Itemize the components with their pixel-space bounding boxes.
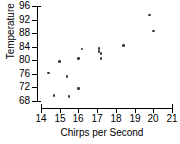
data-point (68, 95, 71, 98)
data-points-layer (0, 0, 180, 144)
data-point (81, 48, 84, 51)
data-point (53, 94, 56, 97)
data-point (100, 57, 103, 60)
data-point (152, 30, 155, 33)
data-point (148, 14, 151, 17)
data-point (122, 44, 125, 47)
data-point (77, 57, 80, 60)
scatter-plot: Temperature (°F) 6872768084889296 141516… (0, 0, 180, 144)
x-axis-title: Chirps per Second (0, 127, 180, 138)
data-point (58, 60, 61, 63)
data-point (77, 87, 80, 90)
data-point (66, 75, 69, 78)
data-point (100, 52, 103, 55)
data-point (47, 72, 50, 75)
